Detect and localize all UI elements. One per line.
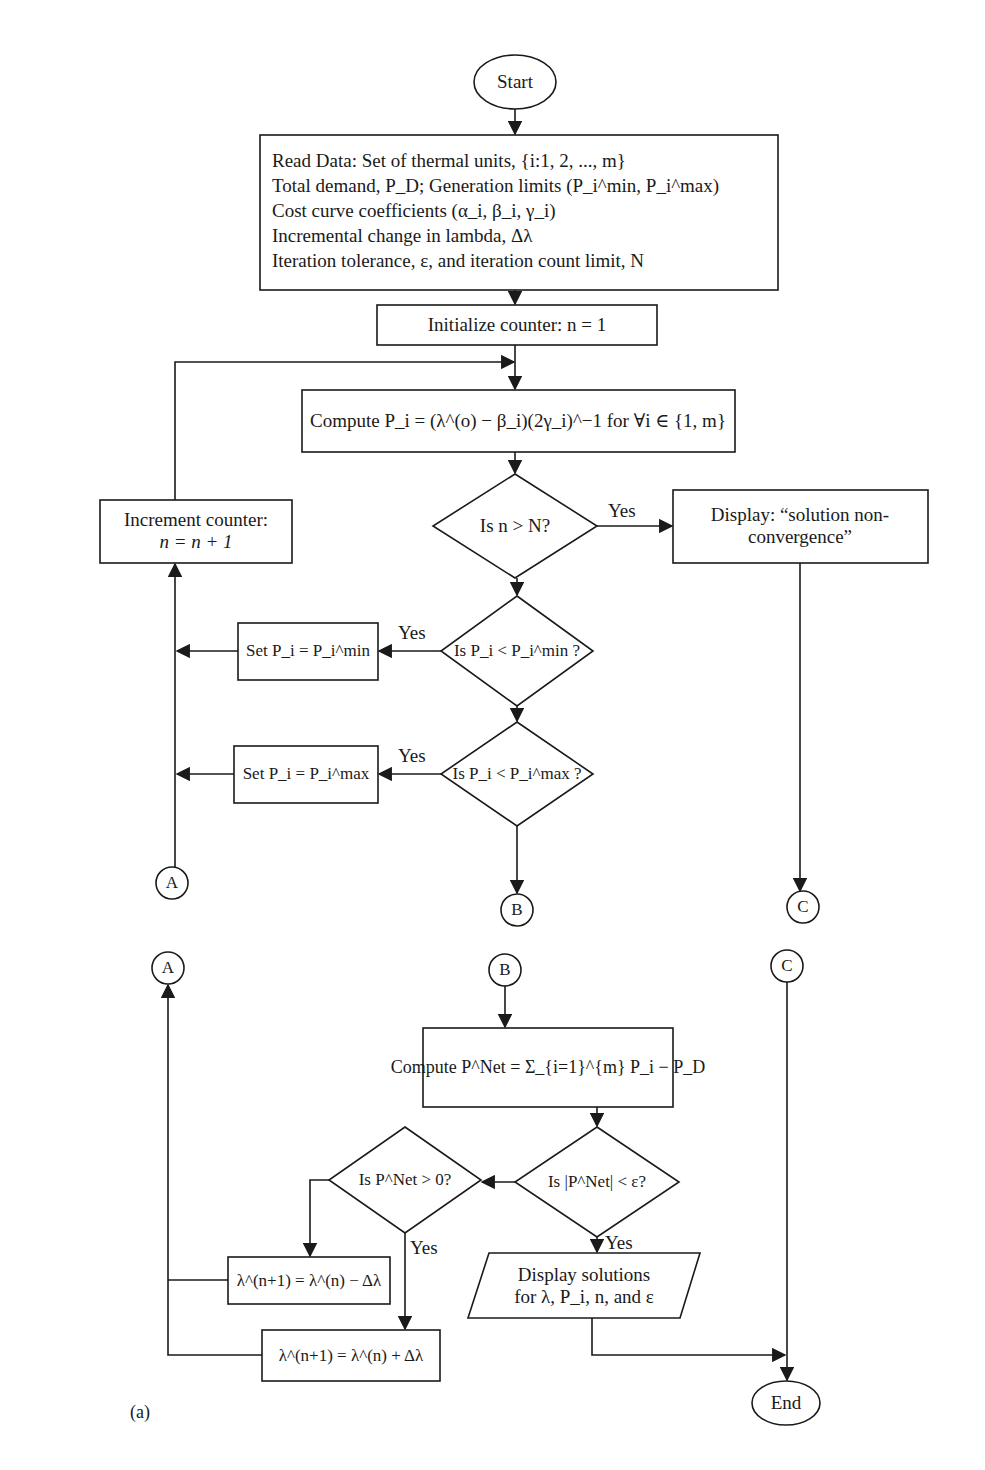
yes-label-max: Yes (398, 745, 426, 767)
decision-converge-label: Is |P^Net| < ε? (548, 1172, 646, 1192)
start-terminal-label: Start (497, 71, 533, 93)
increment-line-1: Increment counter: (124, 509, 268, 531)
display-solutions-line-2: for λ, P_i, n, and ε (514, 1286, 654, 1308)
increment-line-2: n = n + 1 (124, 531, 268, 553)
lambda-increase-label: λ^(n+1) = λ^(n) + Δλ (279, 1346, 424, 1366)
compute-pnet-label: Compute P^Net = Σ_{i=1}^{m} P_i − P_D (391, 1057, 705, 1078)
flowchart-canvas: Start Read Data: Set of thermal units, {… (0, 0, 985, 1470)
end-terminal-label: End (771, 1392, 802, 1414)
set-max-label: Set P_i = P_i^max (243, 764, 370, 784)
connector-a-out: A (166, 873, 178, 893)
display-solutions-label: Display solutions for λ, P_i, n, and ε (514, 1264, 654, 1308)
increment-counter-label: Increment counter: n = n + 1 (124, 509, 268, 553)
non-convergence-label: Display: “solution non- convergence” (711, 504, 889, 548)
initialize-counter-label: Initialize counter: n = 1 (428, 314, 607, 336)
display-solutions-line-1: Display solutions (514, 1264, 654, 1286)
compute-pi-label: Compute P_i = (λ^(o) − β_i)(2γ_i)^−1 for… (310, 410, 726, 432)
read-data-line-2: Total demand, P_D; Generation limits (P_… (272, 173, 719, 198)
yes-label-converge: Yes (605, 1232, 633, 1254)
lambda-decrease-label: λ^(n+1) = λ^(n) − Δλ (237, 1271, 382, 1291)
connector-a-in: A (162, 958, 174, 978)
read-data-box: Read Data: Set of thermal units, {i:1, 2… (272, 148, 719, 273)
read-data-line-3: Cost curve coefficients (α_i, β_i, γ_i) (272, 198, 719, 223)
yes-label-min: Yes (398, 622, 426, 644)
connector-c-out: C (797, 897, 808, 917)
connector-b-in: B (499, 960, 510, 980)
non-convergence-line-2: convergence” (711, 526, 889, 548)
yes-label-iteration: Yes (608, 500, 636, 522)
decision-positive-label: Is P^Net > 0? (359, 1170, 452, 1190)
yes-label-positive: Yes (410, 1237, 438, 1259)
set-min-label: Set P_i = P_i^min (246, 641, 370, 661)
non-convergence-line-1: Display: “solution non- (711, 504, 889, 526)
connector-b-out: B (511, 900, 522, 920)
decision-min-label: Is P_i < P_i^min ? (454, 641, 580, 661)
read-data-line-1: Read Data: Set of thermal units, {i:1, 2… (272, 148, 719, 173)
figure-caption-label: (a) (130, 1402, 150, 1423)
read-data-line-5: Iteration tolerance, ε, and iteration co… (272, 248, 719, 273)
read-data-line-4: Incremental change in lambda, Δλ (272, 223, 719, 248)
decision-max-label: Is P_i < P_i^max ? (452, 764, 581, 784)
decision-iteration-label: Is n > N? (480, 515, 550, 537)
connector-c-in: C (781, 956, 792, 976)
